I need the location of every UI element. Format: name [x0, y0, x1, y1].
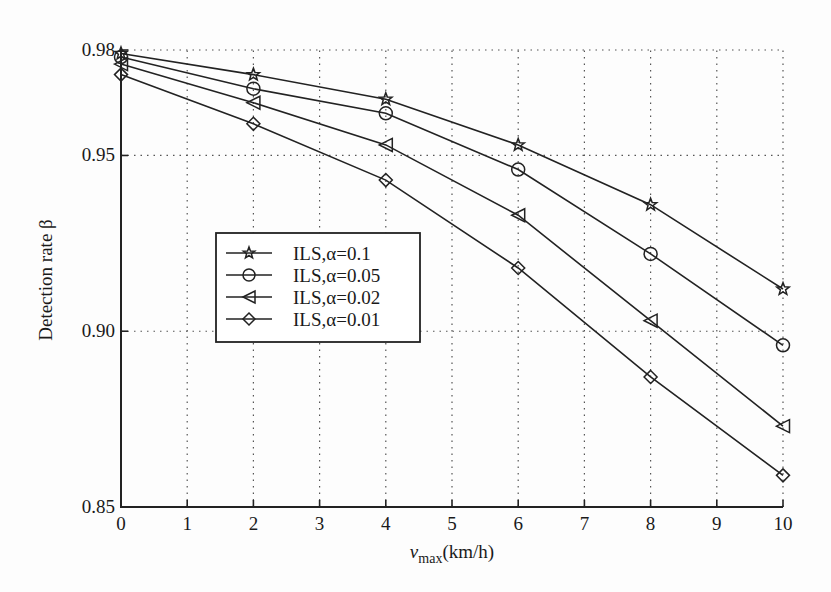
x-tick-label: 5 [447, 513, 457, 534]
y-tick-label: 0.95 [82, 144, 115, 165]
x-tick-label: 4 [381, 513, 391, 534]
x-tick-label: 6 [513, 513, 523, 534]
y-tick-labels: 0.850.900.950.98 [82, 39, 115, 517]
x-axis-label-sub: max [418, 551, 442, 566]
legend-label: ILS,α=0.1 [293, 243, 371, 264]
y-tick-label: 0.98 [82, 39, 115, 60]
detection-rate-chart: 012345678910 0.850.900.950.98 Detection … [0, 0, 831, 592]
x-tick-label: 7 [580, 513, 590, 534]
x-tick-label: 9 [712, 513, 722, 534]
legend-label: ILS,α=0.02 [293, 287, 380, 308]
y-tick-label: 0.90 [82, 320, 115, 341]
y-tick-label: 0.85 [82, 496, 115, 517]
x-tick-label: 3 [315, 513, 325, 534]
legend-label: ILS,α=0.01 [293, 309, 380, 330]
legend: ILS,α=0.1ILS,α=0.05ILS,α=0.02ILS,α=0.01 [216, 233, 420, 342]
x-tick-labels: 012345678910 [116, 513, 792, 534]
x-tick-label: 8 [646, 513, 656, 534]
legend-label: ILS,α=0.05 [293, 265, 380, 286]
x-axis-label: vmax(km/h) [410, 541, 494, 566]
x-tick-label: 0 [116, 513, 126, 534]
x-axis-label-unit: (km/h) [442, 541, 494, 563]
x-tick-label: 10 [774, 513, 793, 534]
x-tick-label: 2 [249, 513, 259, 534]
y-axis-label: Detection rate β [35, 219, 56, 341]
x-tick-label: 1 [182, 513, 192, 534]
